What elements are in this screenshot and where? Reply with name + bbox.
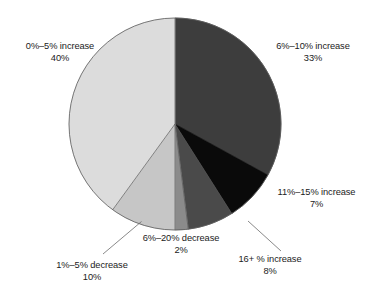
slice-label-1-5-decrease: 1%–5% decrease 10% bbox=[34, 259, 150, 283]
slice-label-value: 2% bbox=[122, 244, 240, 256]
leader-line-16plus-increase bbox=[248, 221, 281, 251]
slice-label-value: 8% bbox=[218, 265, 322, 277]
slice-label-name: 6%–10% increase bbox=[252, 40, 374, 52]
slice-label-name: 1%–5% decrease bbox=[34, 259, 150, 271]
slice-label-16plus-increase: 16+ % increase 8% bbox=[218, 253, 322, 277]
slice-label-0-5-increase: 0%–5% increase 40% bbox=[2, 40, 118, 64]
slice-label-6-10-increase: 6%–10% increase 33% bbox=[252, 40, 374, 64]
pie-chart-figure: 0%–5% increase 40% 6%–10% increase 33% 1… bbox=[0, 0, 377, 297]
slice-label-6-20-decrease: 6%–20% decrease 2% bbox=[122, 232, 240, 256]
slice-label-11-15-increase: 11%–15% increase 7% bbox=[256, 186, 377, 210]
slice-label-name: 6%–20% decrease bbox=[122, 232, 240, 244]
slice-label-name: 11%–15% increase bbox=[256, 186, 377, 198]
slice-label-value: 7% bbox=[256, 198, 377, 210]
slice-label-value: 40% bbox=[2, 52, 118, 64]
slice-label-value: 33% bbox=[252, 52, 374, 64]
slice-label-name: 0%–5% increase bbox=[2, 40, 118, 52]
slice-label-value: 10% bbox=[34, 271, 150, 283]
